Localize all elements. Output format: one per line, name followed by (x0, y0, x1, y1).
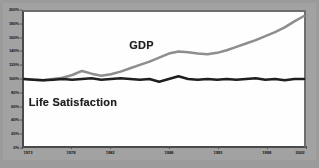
y-axis-tick-label: 0% (13, 146, 19, 150)
plot-area: GDP Life Satisfaction (22, 10, 306, 148)
x-axis-tick-label: 2002 (296, 151, 305, 156)
x-axis-tick-mark (306, 146, 307, 149)
x-axis-tick-mark (22, 146, 23, 149)
series-label-gdp: GDP (129, 39, 154, 51)
y-axis-tick-label: 100% (9, 77, 19, 81)
y-axis-tick-label: 80% (11, 91, 19, 95)
y-axis-tick-label: 60% (11, 104, 19, 108)
x-axis-tick-label: 1998 (262, 151, 271, 156)
y-axis-tick-label: 40% (11, 118, 19, 122)
series-layer (24, 12, 304, 146)
y-axis-tick-label: 160% (9, 35, 19, 39)
x-axis-tick-label: 1982 (106, 151, 115, 156)
y-axis: 0%20%40%60%80%100%120%140%160%180%200% (0, 10, 22, 148)
y-axis-tick-label: 140% (9, 49, 19, 53)
x-axis: 1973197819821988199319982002 (22, 150, 306, 162)
x-axis-tick-mark (267, 146, 268, 149)
x-axis-tick-label: 1988 (164, 151, 173, 156)
y-axis-tick-label: 120% (9, 63, 19, 67)
series-label-life-satisfaction: Life Satisfaction (29, 96, 117, 108)
y-axis-tick-label: 200% (9, 8, 19, 12)
x-axis-tick-label: 1993 (213, 151, 222, 156)
plot-inner: GDP Life Satisfaction (24, 12, 304, 146)
x-axis-tick-mark (71, 146, 72, 149)
y-axis-tick-label: 20% (11, 132, 19, 136)
x-axis-tick-mark (169, 146, 170, 149)
y-axis-tick-label: 180% (9, 22, 19, 26)
x-axis-tick-mark (218, 146, 219, 149)
x-axis-tick-label: 1973 (24, 151, 33, 156)
x-axis-tick-mark (110, 146, 111, 149)
x-axis-tick-label: 1978 (66, 151, 75, 156)
series-line-gdp (24, 16, 304, 80)
chart-screenshot: 0%20%40%60%80%100%120%140%160%180%200% G… (0, 0, 319, 168)
